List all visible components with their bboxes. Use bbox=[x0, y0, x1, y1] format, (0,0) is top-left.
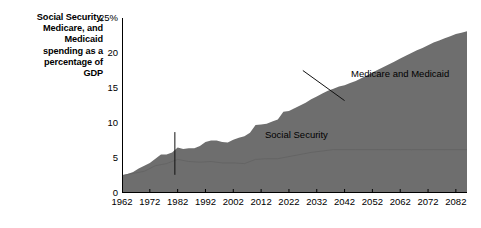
plot-area: Social Security Medicare and Medicaid bbox=[122, 18, 467, 193]
x-tick-label: 2082 bbox=[436, 197, 476, 207]
annotation-social-security: Social Security bbox=[265, 130, 328, 140]
y-axis-labels: 0510152025% bbox=[74, 18, 118, 193]
y-tick-label: 10 bbox=[78, 118, 118, 128]
area-chart-svg bbox=[122, 18, 467, 193]
area-series-total bbox=[122, 31, 467, 193]
x-axis-labels: 1962197219821992200220122022203220422052… bbox=[122, 197, 467, 213]
annotation-medicare-medicaid: Medicare and Medicaid bbox=[351, 69, 449, 79]
chart-figure: Social Security, Medicare, and Medicaid … bbox=[0, 0, 481, 228]
y-tick-label: 20 bbox=[78, 48, 118, 58]
y-tick-label: 5 bbox=[78, 153, 118, 163]
y-tick-label: 25% bbox=[78, 13, 118, 23]
y-tick-label: 15 bbox=[78, 83, 118, 93]
